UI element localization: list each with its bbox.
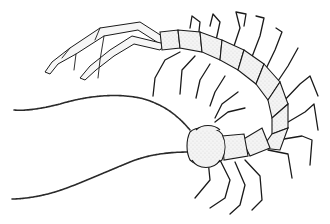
upper-antenna <box>14 96 190 130</box>
terminal-legs <box>45 22 165 80</box>
centipede-illustration <box>0 0 330 224</box>
centipede-drawing <box>0 0 330 224</box>
antennae <box>12 96 190 199</box>
lower-antenna <box>12 152 190 199</box>
head <box>187 126 225 168</box>
